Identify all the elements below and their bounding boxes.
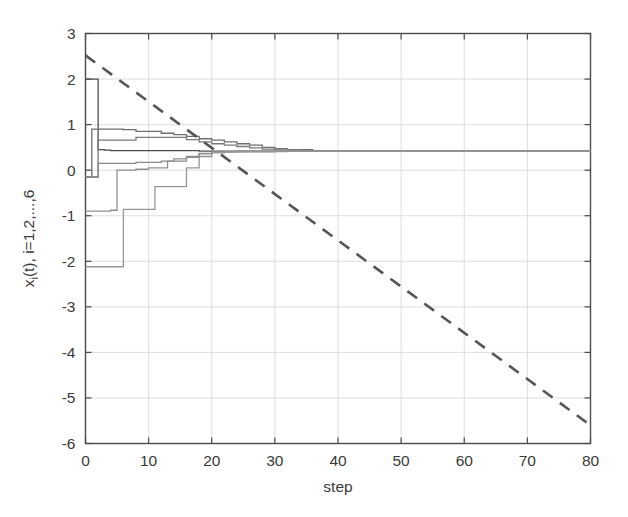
figure-container: 01020304050607080 3210-1-2-3-4-5-6 step …: [0, 0, 628, 517]
x-tick-label: 60: [456, 452, 474, 469]
y-tick-label: -3: [62, 298, 76, 315]
y-tick-label: -1: [62, 207, 76, 224]
y-tick-label: -2: [62, 253, 76, 270]
y-axis-title-rest: (t), i=1,2,...,6: [20, 190, 37, 277]
y-tick-label: -5: [62, 389, 76, 406]
x-tick-label: 80: [582, 452, 600, 469]
line-chart: 01020304050607080 3210-1-2-3-4-5-6 step …: [0, 0, 628, 517]
x-tick-label: 50: [393, 452, 411, 469]
x-tick-label: 70: [519, 452, 537, 469]
x-tick-label: 20: [203, 452, 221, 469]
x-tick-label: 30: [266, 452, 284, 469]
y-tick-label: 1: [67, 116, 76, 133]
x-tick-label: 10: [140, 452, 158, 469]
y-tick-label: 0: [67, 162, 76, 179]
x-tick-label: 40: [329, 452, 347, 469]
x-axis-title: step: [323, 478, 352, 495]
y-tick-label: 3: [67, 25, 76, 42]
chart-background: [0, 0, 628, 517]
y-tick-label: 2: [67, 71, 76, 88]
y-tick-label: -6: [62, 435, 76, 452]
y-tick-label: -4: [62, 344, 76, 361]
x-tick-label: 0: [81, 452, 90, 469]
